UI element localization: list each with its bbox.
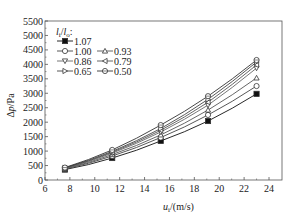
series-line bbox=[65, 60, 257, 168]
series-line bbox=[65, 62, 257, 168]
x-tick-label: 12 bbox=[115, 183, 125, 194]
y-tick-label: 500 bbox=[28, 160, 43, 171]
y-tick-label: 1500 bbox=[23, 131, 43, 142]
series-0-86 bbox=[62, 66, 259, 171]
y-tick-label: 3500 bbox=[23, 73, 43, 84]
x-tick-label: 6 bbox=[43, 183, 48, 194]
x-tick-label: 22 bbox=[239, 183, 249, 194]
x-tick-label: 14 bbox=[140, 183, 150, 194]
legend-item: 0.65 bbox=[57, 66, 92, 77]
y-axis-label: Δp/Pa bbox=[5, 93, 16, 118]
series-0-79 bbox=[62, 62, 258, 170]
y-tick-label: 2500 bbox=[23, 102, 43, 113]
x-tick-label: 18 bbox=[189, 183, 199, 194]
x-tick-label: 16 bbox=[164, 183, 174, 194]
data-point-marker bbox=[62, 38, 67, 43]
data-point-marker bbox=[205, 112, 210, 117]
series-line bbox=[65, 65, 257, 168]
y-tick-label: 3000 bbox=[23, 88, 43, 99]
legend-item: 0.50 bbox=[97, 66, 132, 77]
x-tick-label: 10 bbox=[90, 183, 100, 194]
x-tick-label: 24 bbox=[264, 183, 274, 194]
legend-label: 0.50 bbox=[114, 66, 132, 77]
y-tick-label: 4000 bbox=[23, 59, 43, 70]
data-point-marker bbox=[63, 68, 68, 73]
data-point-marker bbox=[254, 75, 259, 80]
y-tick-label: 4500 bbox=[23, 44, 43, 55]
x-tick-label: 20 bbox=[214, 183, 224, 194]
line-chart: 0500100015002000250030003500400045005000… bbox=[0, 0, 297, 221]
y-tick-label: 5000 bbox=[23, 30, 43, 41]
data-point-marker bbox=[62, 48, 67, 53]
legend-label: 0.65 bbox=[74, 66, 92, 77]
data-point-marker bbox=[254, 83, 259, 88]
legend: li/lo:1.071.000.930.860.790.650.50 bbox=[56, 26, 132, 77]
x-tick-label: 8 bbox=[67, 183, 72, 194]
data-point-marker bbox=[254, 91, 259, 96]
legend-title: li/lo: bbox=[56, 26, 73, 39]
data-point-marker bbox=[205, 118, 210, 123]
x-axis-label: ui/(m/s) bbox=[163, 201, 194, 214]
series-0-50 bbox=[62, 57, 259, 170]
series-0-65 bbox=[63, 59, 259, 170]
y-tick-label: 1000 bbox=[23, 146, 43, 157]
y-tick-label: 2000 bbox=[23, 117, 43, 128]
series-line bbox=[65, 68, 257, 168]
y-tick-label: 5500 bbox=[23, 16, 43, 27]
data-point-marker bbox=[102, 58, 107, 63]
